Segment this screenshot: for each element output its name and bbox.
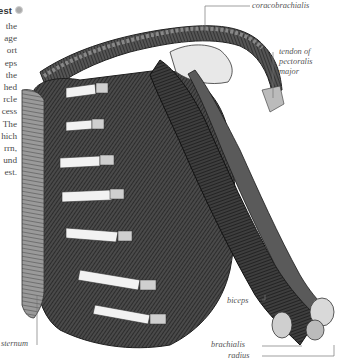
- label-tendon-line3: major: [279, 67, 299, 77]
- label-sternum: sternum: [1, 339, 28, 349]
- label-coracobrachialis: coracobrachialis: [252, 1, 309, 11]
- label-tendon-line2: pectoralis: [279, 57, 313, 67]
- label-tendon-line1: tendon of: [279, 47, 310, 57]
- label-brachialis: brachialis: [211, 340, 245, 350]
- label-radius: radius: [228, 351, 249, 361]
- label-biceps: biceps: [227, 296, 248, 306]
